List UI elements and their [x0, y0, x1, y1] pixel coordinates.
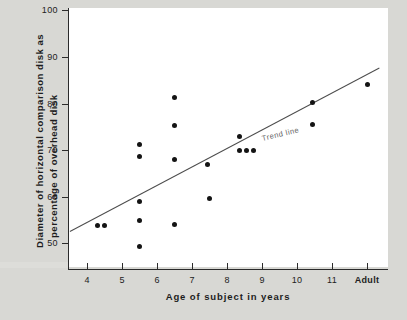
- x-axis-tick: [192, 263, 193, 270]
- y-axis-tick-label: 50: [18, 239, 58, 248]
- data-point: [237, 148, 242, 153]
- data-point: [137, 218, 142, 223]
- y-axis-title-line-1: Diameter of horizontal comparison disk a…: [34, 34, 45, 248]
- y-axis-title-line-2: percentage of overhead disk: [48, 94, 59, 238]
- y-axis-tick: [62, 57, 68, 58]
- y-axis-tick-label: 100: [18, 6, 58, 15]
- x-axis-tick-label: Adult: [347, 275, 387, 285]
- y-axis-tick-label: 70: [18, 146, 58, 155]
- data-point: [237, 134, 242, 139]
- y-axis-tick-label: 90: [18, 53, 58, 62]
- y-axis-tick: [62, 104, 68, 105]
- y-axis-title: Diameter of horizontal comparison disk a…: [0, 0, 68, 270]
- data-point: [137, 244, 142, 249]
- x-axis-tick: [122, 263, 123, 270]
- x-axis-tick: [87, 263, 88, 270]
- x-axis-tick: [297, 263, 298, 270]
- y-axis-tick-label: 60: [18, 193, 58, 202]
- plot-area: [68, 8, 388, 267]
- data-point: [251, 148, 256, 153]
- data-point: [244, 148, 249, 153]
- x-axis-title: Age of subject in years: [68, 291, 388, 302]
- y-axis-tick: [62, 197, 68, 198]
- scatter-chart-figure: Diameter of horizontal comparison disk a…: [0, 0, 407, 320]
- y-axis-tick-label: 80: [18, 100, 58, 109]
- x-axis-tick: [262, 263, 263, 270]
- x-axis-tick: [157, 263, 158, 270]
- x-axis-tick: [227, 263, 228, 270]
- x-axis-tick: [367, 263, 368, 270]
- x-axis-tick: [332, 263, 333, 270]
- data-point: [365, 82, 370, 87]
- y-axis-tick: [62, 150, 68, 151]
- y-axis-tick: [62, 10, 68, 11]
- y-axis-tick: [62, 243, 68, 244]
